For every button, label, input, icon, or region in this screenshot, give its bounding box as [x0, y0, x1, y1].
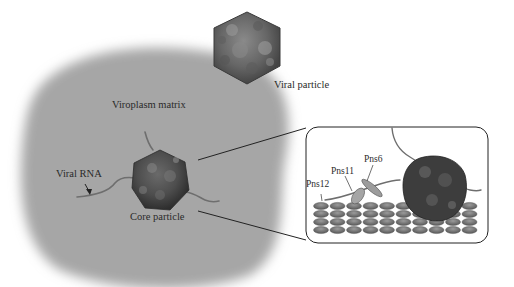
pns12-lattice-unit	[462, 226, 477, 233]
pns12-lattice-unit	[413, 226, 428, 233]
core-particle-label: Core particle	[130, 212, 185, 223]
pns12-lattice-unit	[380, 218, 395, 225]
pns11-label: Pns11	[331, 167, 354, 177]
viroplasm-matrix-label: Viroplasm matrix	[112, 100, 186, 111]
pns12-lattice-unit	[462, 202, 477, 209]
pns12-lattice-unit	[347, 226, 362, 233]
pns12-lattice-unit	[429, 226, 444, 233]
pns12-lattice-unit	[347, 218, 362, 225]
pns12-lattice-unit	[330, 210, 345, 217]
pns12-lattice-unit	[330, 218, 345, 225]
pns12-lattice-unit	[396, 210, 411, 217]
pns12-lattice-unit	[363, 210, 378, 217]
pns12-lattice-unit	[446, 226, 461, 233]
diagram-svg	[0, 0, 514, 287]
viral-rna-label: Viral RNA	[56, 169, 102, 180]
viral-particle-label: Viral particle	[274, 80, 329, 91]
pns12-lattice-unit	[314, 226, 329, 233]
pns12-lattice-unit	[330, 202, 345, 209]
pns12-lattice-unit	[363, 202, 378, 209]
pns12-lattice-unit	[396, 218, 411, 225]
diagram-canvas: Viral particle Viroplasm matrix Viral RN…	[0, 0, 514, 287]
pns12-lattice-unit	[363, 226, 378, 233]
pns12-lattice-unit	[314, 202, 329, 209]
pns12-lattice-unit	[396, 226, 411, 233]
pns12-lattice-unit	[380, 226, 395, 233]
pns12-lattice-unit	[380, 210, 395, 217]
pns6-label: Pns6	[364, 155, 382, 165]
pns12-lattice-unit	[314, 218, 329, 225]
pns12-label: Pns12	[306, 180, 329, 190]
pns12-lattice-unit	[446, 218, 461, 225]
pns12-lattice-unit	[330, 226, 345, 233]
pns12-lattice-unit	[314, 210, 329, 217]
pns12-lattice-unit	[380, 202, 395, 209]
inset-core-particle	[403, 156, 466, 221]
pns12-lattice-unit	[347, 210, 362, 217]
pns12-lattice-unit	[462, 210, 477, 217]
pns12-lattice-unit	[363, 218, 378, 225]
pns12-lattice-unit	[462, 218, 477, 225]
inset-panel	[306, 127, 488, 243]
